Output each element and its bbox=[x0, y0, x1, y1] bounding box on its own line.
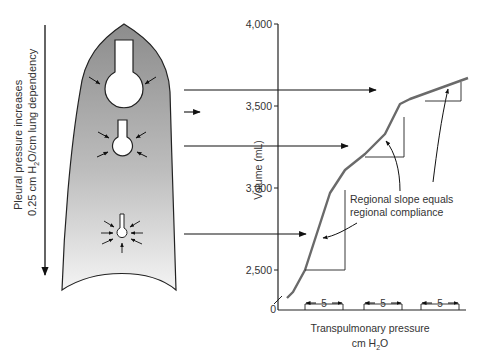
region-arrows bbox=[184, 90, 376, 234]
x-interval-3: 5 bbox=[421, 298, 459, 310]
y-tick-0: 0 bbox=[270, 303, 276, 315]
label-line-1: Pleural pressure increases bbox=[12, 79, 24, 210]
y-tick-4000: 4,000 bbox=[246, 18, 272, 30]
slope-annotation: Regional slope equals regional complianc… bbox=[323, 89, 453, 238]
y-tick-3500: 3,500 bbox=[246, 100, 272, 112]
x-axis-unit: cm H2O bbox=[352, 337, 389, 351]
svg-text:5: 5 bbox=[437, 298, 443, 309]
y-axis-label: Volume (mL) bbox=[252, 140, 264, 200]
y-axis: 4,000 3,500 3,000 2,500 0 Volume (mL) bbox=[246, 18, 282, 315]
svg-text:Regional slope equals: Regional slope equals bbox=[350, 193, 453, 205]
x-axis: 5 5 5 Transpulmonary pressure cm H2O bbox=[278, 298, 466, 351]
slope-triangles bbox=[305, 82, 461, 270]
label-line-2: 0.25 cm H2O/cm lung dependency bbox=[26, 48, 40, 216]
svg-text:5: 5 bbox=[321, 298, 327, 309]
pressure-volume-curve bbox=[287, 78, 468, 298]
lung-compliance-diagram: Pleural pressure increases 0.25 cm H2O/c… bbox=[0, 0, 480, 354]
pleural-pressure-label: Pleural pressure increases 0.25 cm H2O/c… bbox=[12, 48, 40, 216]
x-axis-label: Transpulmonary pressure bbox=[310, 322, 429, 334]
x-interval-2: 5 bbox=[364, 298, 402, 310]
y-tick-2500: 2,500 bbox=[246, 264, 272, 276]
x-interval-1: 5 bbox=[305, 298, 343, 310]
svg-text:5: 5 bbox=[380, 298, 386, 309]
svg-text:regional compliance: regional compliance bbox=[350, 206, 444, 218]
